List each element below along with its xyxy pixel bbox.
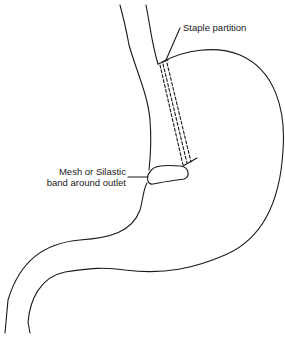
- silastic-band: [148, 166, 188, 185]
- lesser-curvature: [5, 183, 147, 333]
- greater-curvature: [28, 50, 283, 333]
- staple-line-2: [163, 64, 187, 163]
- esophagus-left-wall: [120, 5, 151, 170]
- staple-line-3: [167, 63, 191, 162]
- band-label-line1: Mesh or Silastic: [30, 166, 126, 177]
- staple-bottom-tick: [183, 158, 197, 166]
- band-label-line2: band around outlet: [30, 177, 126, 188]
- staple-partition-label: Staple partition: [183, 22, 246, 33]
- esophagus-right-wall: [146, 5, 158, 64]
- diagram-canvas: Staple partition Mesh or Silastic band a…: [0, 0, 285, 341]
- staple-top-tick: [158, 60, 168, 64]
- band-label: Mesh or Silastic band around outlet: [30, 166, 126, 188]
